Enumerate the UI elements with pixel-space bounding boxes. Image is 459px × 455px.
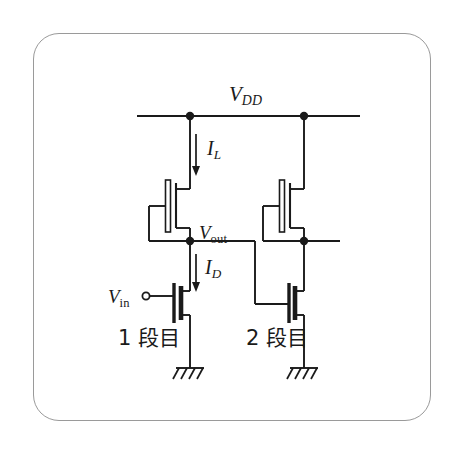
- stage2-output-net: [300, 237, 340, 245]
- circuit-schematic: [0, 0, 459, 455]
- label-id-base: I: [205, 256, 212, 278]
- label-id: ID: [205, 257, 221, 280]
- label-vdd-subscript: DD: [242, 93, 262, 108]
- ground1-hatch-3: [189, 368, 195, 379]
- ground2-hatch-2: [295, 368, 301, 379]
- label-vdd-base: V: [229, 82, 242, 106]
- load1-gate-bar: [166, 180, 171, 232]
- label-vin-base: V: [108, 286, 120, 307]
- vdd-rail-group: [137, 112, 360, 120]
- label-vout-base: V: [199, 222, 211, 243]
- label-il-subscript: L: [214, 147, 222, 162]
- vout-net: [186, 237, 289, 304]
- ground2-hatch-1: [287, 368, 293, 379]
- ground2-hatch-4: [311, 368, 317, 379]
- label-il: IL: [207, 138, 221, 161]
- figure-canvas: VDD IL Vout ID Vin 1 段目 2 段目: [0, 0, 459, 455]
- ground1-hatch-1: [173, 368, 179, 379]
- il-arrow-head: [192, 166, 200, 176]
- label-vdd: VDD: [229, 84, 262, 108]
- load2-gate-bar: [280, 180, 285, 232]
- label-vout-subscript: out: [211, 232, 228, 246]
- label-stage-1: 1 段目: [118, 328, 180, 349]
- ground2-hatch-3: [303, 368, 309, 379]
- label-vout: Vout: [199, 223, 227, 245]
- ground1-hatch-2: [181, 368, 187, 379]
- label-vin-subscript: in: [120, 296, 130, 310]
- load-mosfet-stage2: [263, 116, 304, 241]
- label-stage-2: 2 段目: [246, 328, 308, 349]
- load-mosfet-stage1: [149, 116, 190, 241]
- ground-stage1: [173, 368, 204, 379]
- id-current-arrow: [192, 254, 200, 292]
- il-current-arrow: [192, 134, 200, 176]
- id-arrow-head: [192, 282, 200, 292]
- ground-stage2: [287, 368, 318, 379]
- vin-terminal-circle[interactable]: [142, 292, 149, 299]
- label-il-base: I: [207, 137, 214, 159]
- label-id-subscript: D: [212, 266, 222, 281]
- ground1-hatch-4: [197, 368, 203, 379]
- label-vin: Vin: [108, 287, 130, 309]
